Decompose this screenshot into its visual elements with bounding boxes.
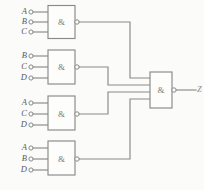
input-label-b2: B <box>22 50 27 60</box>
gate-2-output-wire <box>79 67 150 85</box>
gate-4-symbol: & <box>58 154 65 164</box>
input-terminal-b2[interactable] <box>29 54 33 58</box>
input-label-a4: A <box>21 142 28 152</box>
input-label-b1: B <box>22 16 27 26</box>
input-terminal-a4[interactable] <box>29 146 33 150</box>
input-label-d2: D <box>20 72 28 82</box>
gate-2-group <box>29 50 150 85</box>
input-terminal-d4[interactable] <box>29 168 33 172</box>
output-gate-symbol: & <box>157 85 164 95</box>
circuit-canvas: & & & & & A B C B C D A C D A B D Z <box>0 0 204 190</box>
gate-1-symbol: & <box>58 17 65 27</box>
gate-4-invert-bubble <box>75 157 79 161</box>
logic-diagram: & & & & & A B C B C D A C D A B D Z <box>0 0 204 190</box>
input-terminal-a3[interactable] <box>29 101 33 105</box>
gate-3-output-wire <box>79 92 150 114</box>
gate-3-invert-bubble <box>75 112 79 116</box>
input-label-c2: C <box>21 61 27 71</box>
gate-1-output-wire <box>79 22 150 78</box>
input-terminal-c2[interactable] <box>29 65 33 69</box>
input-terminal-c3[interactable] <box>29 112 33 116</box>
gate-4-group <box>29 99 150 175</box>
input-label-a3: A <box>21 97 28 107</box>
input-label-d4: D <box>20 164 28 174</box>
output-label: Z <box>197 84 202 94</box>
input-terminal-d2[interactable] <box>29 76 33 80</box>
input-label-b4: B <box>22 153 27 163</box>
input-label-c1: C <box>21 26 27 36</box>
input-label-a1: A <box>21 6 28 16</box>
gate-3-symbol: & <box>58 109 65 119</box>
input-terminal-b1[interactable] <box>29 20 33 24</box>
gate-4-output-wire <box>79 99 150 159</box>
output-gate-invert-bubble <box>172 88 176 92</box>
input-terminal-a1[interactable] <box>29 10 33 14</box>
gate-2-symbol: & <box>58 62 65 72</box>
input-terminal-d3[interactable] <box>29 123 33 127</box>
input-terminal-c1[interactable] <box>29 30 33 34</box>
input-label-d3: D <box>20 119 28 129</box>
gate-2-invert-bubble <box>75 65 79 69</box>
gate-3-group <box>29 92 150 130</box>
gate-1-invert-bubble <box>75 20 79 24</box>
input-label-c3: C <box>21 108 27 118</box>
input-terminal-b4[interactable] <box>29 157 33 161</box>
